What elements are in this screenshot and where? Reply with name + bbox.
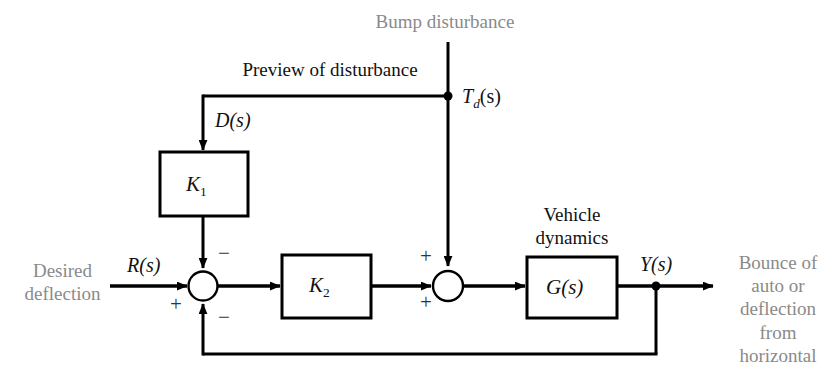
k2-sub: 2 [323,285,330,300]
sign-forward-positive: + [420,292,432,313]
summing-junction-2 [433,271,463,301]
output-line-3: deflection [722,297,834,320]
preview-of-disturbance-label: Preview of disturbance [215,58,445,81]
d-text: D(s) [215,109,251,131]
y-text: Y(s) [640,253,672,275]
block-diagram: Bump disturbance Preview of disturbance … [0,0,834,382]
desired-deflection-line-1: Desired [10,259,115,282]
bump-disturbance-label: Bump disturbance [355,10,535,33]
summing-junction-1 [189,272,218,301]
g-base: G(s) [546,275,583,299]
output-description-label: Bounce of auto or deflection from horizo… [722,251,834,367]
sign-preview-negative: − [218,243,230,264]
block-label-k2: K2 [309,273,330,301]
td-sub: d [473,96,480,111]
vehicle-dynamics-line-1: Vehicle [512,203,632,226]
desired-deflection-label: Desired deflection [10,259,115,305]
output-line-1: Bounce of [722,251,834,274]
sign-reference-positive: + [170,294,182,315]
td-tail: (s) [480,85,501,107]
signal-label-r: R(s) [127,253,160,277]
output-line-4: from [722,321,834,344]
signal-label-td: Td(s) [462,84,501,112]
vehicle-dynamics-label: Vehicle dynamics [512,203,632,249]
output-line-5: horizontal [722,344,834,367]
vehicle-dynamics-line-2: dynamics [512,226,632,249]
k2-base: K [309,273,323,297]
k1-base: K [186,172,200,196]
output-line-2: auto or [722,274,834,297]
td-base: T [462,85,473,107]
k1-sub: 1 [200,184,207,199]
sign-disturbance-positive: + [420,246,432,267]
r-text: R(s) [127,254,160,276]
sign-feedback-negative: − [218,307,230,328]
signal-label-y: Y(s) [640,252,672,276]
desired-deflection-line-2: deflection [10,282,115,305]
signal-label-d: D(s) [215,108,251,132]
block-label-g: G(s) [546,275,583,300]
block-label-k1: K1 [186,172,207,200]
